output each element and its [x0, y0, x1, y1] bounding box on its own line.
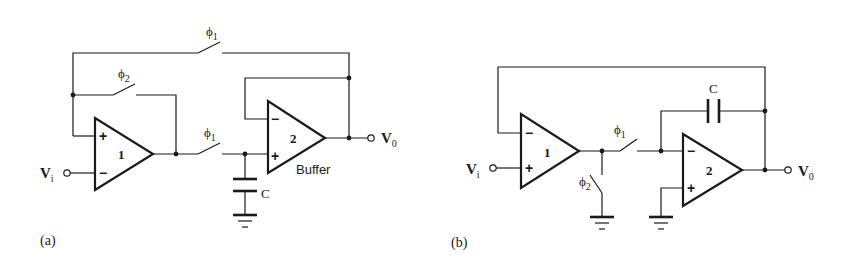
switch-phi1-series-label: ϕ1	[204, 125, 216, 143]
ground-icon	[233, 215, 257, 227]
opamp2-plus-sign: +	[687, 180, 695, 196]
opamp2-minus-sign: −	[271, 111, 279, 127]
switch-phi1-label: ϕ1	[614, 122, 626, 140]
junction-dot	[347, 136, 352, 141]
panel-caption-b: (b)	[451, 235, 468, 251]
opamp2-plus-sign: +	[271, 148, 279, 164]
opamp1-number: 1	[544, 145, 551, 160]
switch-phi1-top-blade	[198, 42, 220, 53]
circuit-diagram: + − 1 − + 2 ϕ1	[0, 0, 852, 261]
switch-phi2-blade	[113, 84, 135, 95]
switch-phi2-label: ϕ2	[579, 174, 591, 192]
input-terminal-vi	[64, 170, 70, 176]
opamp1-plus-sign: +	[99, 128, 107, 144]
opamp1-minus-sign: −	[99, 165, 107, 181]
opamp2-number: 2	[290, 131, 297, 146]
ground-icon	[590, 217, 614, 229]
input-label-vi: Vi	[466, 161, 480, 180]
opamp1-plus-sign: +	[525, 160, 533, 176]
input-terminal-vi	[490, 165, 496, 171]
buffer-label: Buffer	[296, 162, 331, 177]
capacitor-label: C	[261, 186, 270, 201]
input-label-vi: Vi	[40, 165, 54, 184]
opamp2-number: 2	[706, 163, 713, 178]
junction-dot	[763, 109, 768, 114]
output-label-v0: V0	[798, 163, 814, 182]
top-feedback-path	[73, 42, 349, 138]
junction-dot	[174, 152, 179, 157]
opamp1-minus-sign: −	[525, 125, 533, 141]
switch-phi1-series-blade	[198, 143, 220, 154]
output-label-v0: V0	[381, 130, 397, 149]
panel-b: − + 1 − +	[451, 67, 814, 251]
switch-phi2-blade	[590, 175, 602, 193]
junction-dot	[763, 168, 768, 173]
panel-caption-a: (a)	[40, 233, 56, 249]
output-terminal-v0	[368, 135, 374, 141]
opamp1-number: 1	[118, 147, 125, 162]
capacitor-label: C	[709, 81, 718, 96]
opamp2-minus-sign: −	[687, 143, 695, 159]
junction-dot	[71, 93, 76, 98]
switch-phi2-label: ϕ2	[118, 66, 130, 84]
switch-phi1-top-label: ϕ1	[206, 24, 218, 42]
output-terminal-v0	[785, 167, 791, 173]
ground-icon	[649, 217, 673, 229]
junction-dot	[347, 76, 352, 81]
switch-phi1-blade	[620, 139, 637, 151]
panel-a: + − 1 − + 2 ϕ1	[40, 24, 397, 249]
